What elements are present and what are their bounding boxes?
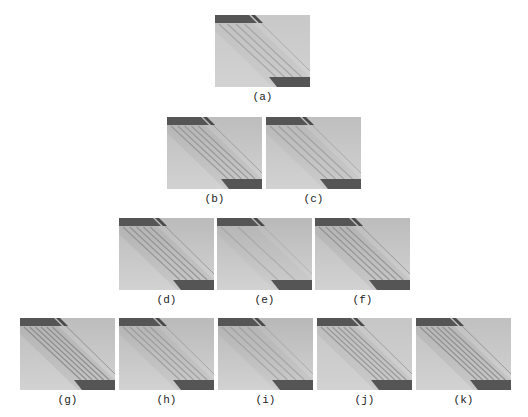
figure-panel-f: [315, 218, 410, 290]
panel-caption-g: (g): [20, 394, 115, 406]
figure-panel-c: [266, 117, 361, 189]
stripe-image: [266, 117, 361, 189]
panel-caption-b: (b): [167, 193, 262, 205]
stripe-image: [218, 318, 313, 390]
figure-panel-j: [317, 318, 412, 390]
figure-panel-e: [217, 218, 312, 290]
panel-caption-f: (f): [315, 294, 410, 306]
figure-panel-d: [119, 218, 214, 290]
panel-caption-d: (d): [119, 294, 214, 306]
figure-panel-h: [119, 318, 214, 390]
panel-caption-a: (a): [215, 91, 310, 103]
stripe-image: [119, 318, 214, 390]
panel-caption-e: (e): [217, 294, 312, 306]
figure-panel-i: [218, 318, 313, 390]
figure-panel-b: [167, 117, 262, 189]
stripe-image: [317, 318, 412, 390]
panel-caption-h: (h): [119, 394, 214, 406]
panel-caption-c: (c): [266, 193, 361, 205]
stripe-image: [119, 218, 214, 290]
figure-panel-a: [215, 15, 310, 87]
panel-caption-j: (j): [317, 394, 412, 406]
stripe-image: [416, 318, 511, 390]
stripe-image: [315, 218, 410, 290]
stripe-image: [217, 218, 312, 290]
stripe-image: [20, 318, 115, 390]
figure-panel-k: [416, 318, 511, 390]
stripe-image: [215, 15, 310, 87]
panel-caption-i: (i): [218, 394, 313, 406]
stripe-image: [167, 117, 262, 189]
figure-panel-g: [20, 318, 115, 390]
panel-caption-k: (k): [416, 394, 511, 406]
